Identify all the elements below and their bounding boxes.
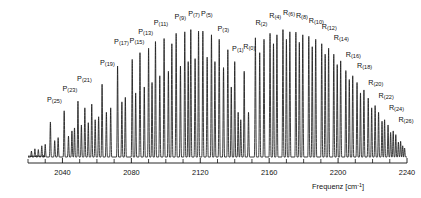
axis-tick-label: 2080	[123, 168, 139, 177]
peak-label-r-12: R(12)	[322, 23, 337, 32]
axis-tick-label: 2040	[54, 168, 70, 177]
peak-label-p-23: P(23)	[63, 85, 78, 94]
peak-label-r-16: R(16)	[346, 51, 361, 60]
peak-label-p-7: P(7)	[188, 10, 200, 19]
peak-label-r-6: R(6)	[283, 9, 295, 18]
peak-label-p-25: P(25)	[47, 96, 62, 105]
peak-label-p-3: P(3)	[218, 25, 230, 34]
peak-label-p-1: P(1)	[232, 45, 244, 54]
peak-label-p-11: P(11)	[154, 19, 168, 28]
peak-label-r-14: R(14)	[334, 34, 349, 43]
peak-label-r-18: R(18)	[357, 62, 372, 71]
peak-label-r-0: R(0)	[243, 43, 255, 52]
axis-tick-label: 2240	[399, 168, 415, 177]
spectrum-figure: P(25)P(23)P(21)P(19)P(17)P(15)P(13)P(11)…	[0, 0, 421, 198]
peak-label-p-15: P(15)	[130, 37, 145, 46]
axis-tick-label: 2160	[261, 168, 277, 177]
peak-label-r-4: R(4)	[269, 12, 281, 21]
peak-label-r-24: R(24)	[389, 104, 404, 113]
peak-label-p-19: P(19)	[100, 59, 115, 68]
peak-label-p-17: P(17)	[114, 38, 129, 47]
peak-label-r-26: R(26)	[398, 116, 413, 125]
peak-label-r-8: R(8)	[296, 12, 308, 21]
peak-label-r-20: R(20)	[368, 79, 383, 88]
peak-label-p-9: P(9)	[174, 13, 186, 22]
peak-label-r-22: R(22)	[379, 92, 394, 101]
peak-label-p-13: P(13)	[138, 28, 153, 37]
axis-tick-label: 2120	[192, 168, 208, 177]
peak-label-p-21: P(21)	[77, 75, 92, 84]
axis-tick-label: 2200	[330, 168, 346, 177]
spectrum-trace	[28, 17, 407, 157]
peak-label-r-2: R(2)	[255, 19, 267, 28]
axis-title: Frequenz [cm-1]	[312, 182, 364, 191]
peak-label-p-5: P(5)	[201, 10, 213, 19]
frequency-axis	[28, 158, 407, 163]
